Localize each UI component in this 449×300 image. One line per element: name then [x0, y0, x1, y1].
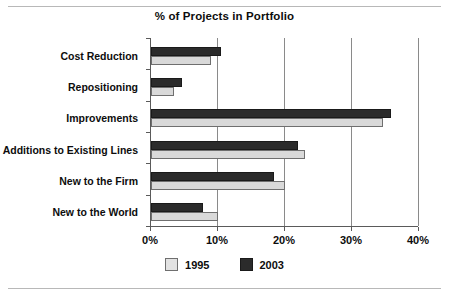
bar-1995: [151, 150, 305, 159]
x-axis-tick: [418, 227, 419, 231]
gridline: [284, 38, 285, 226]
light-gray-swatch: [165, 258, 178, 271]
x-axis-tick-label: 0%: [142, 234, 158, 246]
chart-title: % of Projects in Portfolio: [0, 10, 449, 22]
bar-1995: [151, 87, 174, 96]
bar-2003: [151, 172, 274, 181]
y-axis-tick: [146, 163, 150, 164]
y-axis-tick: [146, 69, 150, 70]
gridline: [351, 38, 352, 226]
bottom-divider-rule: [8, 288, 441, 289]
legend-label: 1995: [185, 259, 209, 271]
bar-1995: [151, 181, 285, 190]
dark-swatch: [240, 258, 253, 271]
x-axis-tick-label: 10%: [206, 234, 228, 246]
category-label: Additions to Existing Lines: [0, 144, 144, 156]
top-divider-rule: [8, 6, 441, 7]
x-axis-tick-label: 40%: [407, 234, 429, 246]
y-axis-tick: [146, 101, 150, 102]
bar-2003: [151, 78, 182, 87]
gridline: [418, 38, 419, 226]
category-label: Repositioning: [0, 81, 144, 93]
x-axis-tick: [150, 227, 151, 231]
y-axis-tick: [146, 38, 150, 39]
bar-1995: [151, 212, 218, 221]
category-label: Improvements: [0, 112, 144, 124]
y-axis-tick: [146, 132, 150, 133]
bar-1995: [151, 56, 211, 65]
bar-2003: [151, 109, 391, 118]
category-label: New to the Firm: [0, 175, 144, 187]
bar-1995: [151, 118, 383, 127]
gridline: [217, 38, 218, 226]
bar-2003: [151, 203, 203, 212]
legend-item: 2003: [240, 258, 284, 271]
x-axis-tick: [217, 227, 218, 231]
x-axis-tick: [351, 227, 352, 231]
x-axis-tick-label: 30%: [340, 234, 362, 246]
bar-2003: [151, 141, 298, 150]
category-label: New to the World: [0, 206, 144, 218]
chart-legend: 19952003: [0, 258, 449, 271]
y-axis-line: [150, 38, 151, 227]
plot-area: 0%10%20%30%40%: [150, 38, 418, 226]
chart-figure: % of Projects in Portfolio Cost Reductio…: [0, 0, 449, 300]
legend-item: 1995: [165, 258, 209, 271]
category-label: Cost Reduction: [0, 50, 144, 62]
legend-label: 2003: [260, 259, 284, 271]
x-axis-tick-label: 20%: [273, 234, 295, 246]
y-axis-tick: [146, 195, 150, 196]
x-axis-tick: [284, 227, 285, 231]
bar-2003: [151, 47, 221, 56]
